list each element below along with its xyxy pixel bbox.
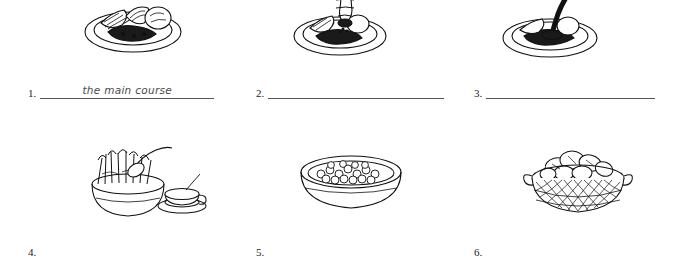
answer-row-3: 3.	[474, 83, 656, 99]
question-number-4: 4.	[28, 246, 36, 258]
answer-text-1: the main course	[82, 84, 172, 98]
answer-blank-2[interactable]	[268, 84, 444, 99]
picture-2-plate-with-pepper-grinder	[288, 0, 398, 60]
answer-blank-3[interactable]	[486, 84, 655, 99]
question-number-3: 3.	[474, 87, 482, 99]
answer-row-1: 1. the main course	[28, 83, 218, 99]
picture-6-basket-of-bread	[518, 142, 638, 220]
picture-1-plate-of-food	[78, 0, 188, 60]
question-number-6: 6.	[474, 246, 482, 258]
question-number-1: 1.	[28, 87, 36, 99]
picture-3-plate-with-sauce-poured	[498, 0, 623, 60]
question-number-2: 2.	[256, 87, 264, 99]
answer-blank-1[interactable]: the main course	[40, 84, 214, 99]
answer-row-2: 2.	[256, 83, 444, 99]
picture-4-bowl-of-fries-with-cup	[80, 142, 210, 222]
question-number-5: 5.	[256, 246, 264, 258]
picture-5-dish-of-peas	[295, 150, 410, 216]
